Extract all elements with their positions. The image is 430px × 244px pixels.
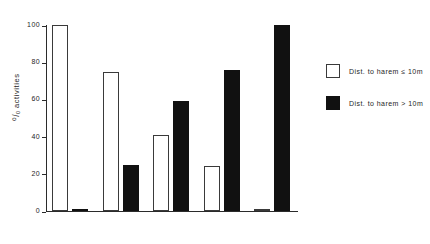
y-axis-tick-mark — [42, 100, 46, 101]
bar — [123, 165, 139, 212]
y-axis-tick-mark — [42, 26, 46, 27]
bar-group: Urinates — [103, 25, 147, 211]
y-axis-tick-label: 80 — [31, 58, 40, 65]
bar — [103, 72, 119, 212]
y-axis-tick-mark — [42, 174, 46, 175]
legend-swatch — [326, 96, 340, 110]
y-axis-tick-label: 20 — [31, 170, 40, 177]
bar — [254, 209, 270, 211]
legend-label: Dist. to harem > 10m — [349, 100, 423, 107]
legend-item: Dist. to harem ≤ 10m — [326, 64, 430, 78]
bar-chart-figure: ⁰/₀ activities 020406080100 LiesUrinates… — [0, 0, 430, 244]
chart-legend: Dist. to harem ≤ 10mDist. to harem > 10m — [326, 64, 430, 128]
bar — [204, 166, 220, 211]
bar-group: Wipes face — [204, 25, 248, 211]
y-axis-label-text: activities — [12, 73, 21, 108]
bar — [52, 25, 68, 211]
y-axis-tick-label: 100 — [27, 21, 40, 28]
y-axis-tick-label: 0 — [36, 207, 40, 214]
y-axis-label-percent-symbol: ⁰/₀ — [11, 111, 21, 121]
bar — [72, 209, 88, 211]
legend-swatch — [326, 64, 340, 78]
bar — [153, 135, 169, 211]
legend-item: Dist. to harem > 10m — [326, 96, 430, 110]
legend-label: Dist. to harem ≤ 10m — [349, 68, 423, 75]
bar-group: Wallows — [254, 25, 298, 211]
y-axis-tick-mark — [42, 63, 46, 64]
y-axis-tick-label: 60 — [31, 95, 40, 102]
y-axis-tick-label: 40 — [31, 133, 40, 140]
y-axis-line — [46, 25, 47, 212]
x-axis-line — [46, 211, 298, 212]
bar — [274, 25, 290, 211]
bar — [173, 101, 189, 211]
y-axis-label: ⁰/₀ activities — [11, 47, 21, 147]
y-axis-tick-mark — [42, 137, 46, 138]
bar-group: Thrashes — [153, 25, 197, 211]
bar-group: Lies — [52, 25, 96, 211]
bar — [224, 70, 240, 211]
plot-area: 020406080100 LiesUrinatesThrashesWipes f… — [46, 25, 298, 212]
y-axis-tick-mark — [42, 212, 46, 213]
